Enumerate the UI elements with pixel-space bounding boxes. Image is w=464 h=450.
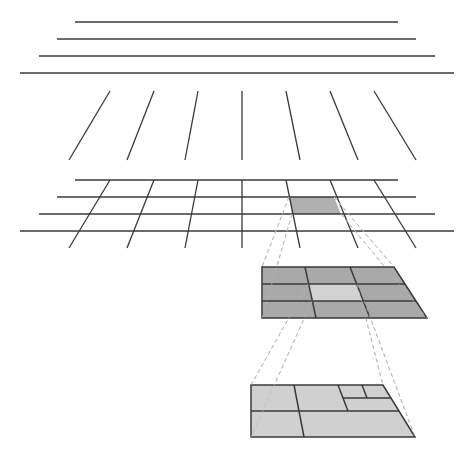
slanted-line — [286, 91, 300, 160]
horizontal-lines-group — [20, 22, 454, 73]
subdivided-grid — [251, 385, 415, 437]
slanted-line — [185, 91, 198, 160]
slanted-lines-group — [69, 91, 416, 160]
slanted-line — [374, 91, 416, 160]
zoom-grid-center-cell — [308, 284, 364, 301]
dashed-connector-overlay — [262, 197, 289, 267]
dashed-connector-overlay — [334, 197, 394, 267]
combined-grid — [20, 180, 454, 248]
highlighted-cell — [289, 197, 341, 214]
zoomed-3x3-grid — [262, 267, 427, 318]
perspective-grid-diagram — [0, 0, 464, 450]
slanted-line — [127, 91, 154, 160]
slanted-line — [330, 91, 358, 160]
slanted-line — [69, 91, 110, 160]
